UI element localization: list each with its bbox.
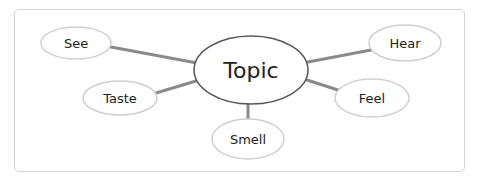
node-taste[interactable]: Taste — [83, 81, 157, 115]
mind-map: See Taste Smell Feel Hear Topic — [0, 0, 482, 182]
node-feel-label: Feel — [359, 91, 385, 106]
node-hear-label: Hear — [389, 36, 421, 51]
topic-label: Topic — [222, 58, 278, 83]
connector-taste — [156, 81, 196, 93]
node-smell[interactable]: Smell — [212, 119, 284, 159]
node-see-label: See — [64, 36, 88, 51]
connector-feel — [307, 80, 338, 90]
node-smell-label: Smell — [230, 132, 266, 147]
node-hear[interactable]: Hear — [369, 25, 441, 61]
connector-hear — [308, 50, 371, 62]
node-topic[interactable]: Topic — [194, 36, 308, 104]
node-see[interactable]: See — [41, 27, 111, 59]
node-feel[interactable]: Feel — [335, 79, 409, 117]
connector-see — [111, 47, 197, 63]
node-taste-label: Taste — [102, 91, 137, 106]
